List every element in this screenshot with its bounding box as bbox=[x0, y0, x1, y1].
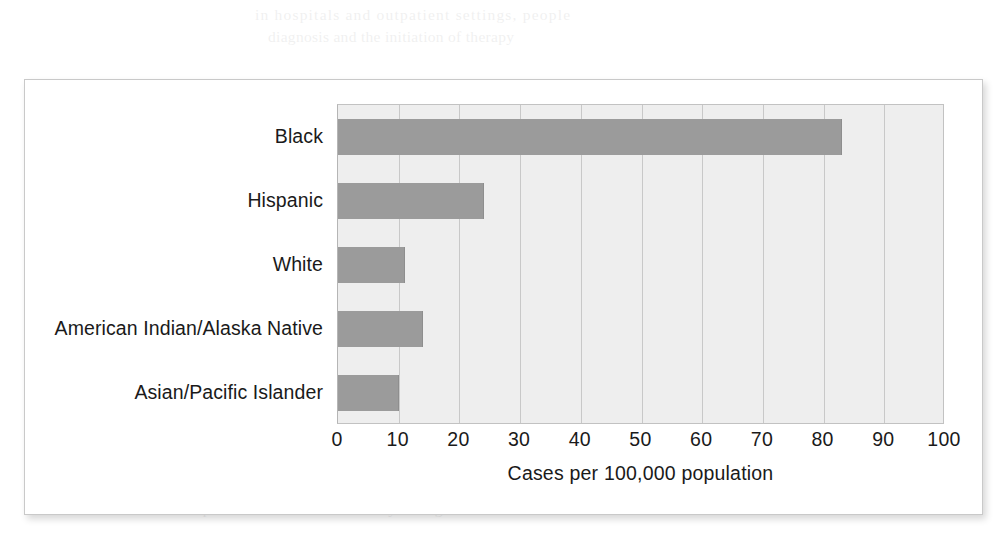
x-tick-label: 50 bbox=[606, 428, 676, 451]
bleed-through-line: diagnosis and the initiation of therapy bbox=[268, 28, 514, 46]
bars-layer bbox=[338, 105, 943, 423]
x-tick-label: 30 bbox=[484, 428, 554, 451]
bar bbox=[338, 311, 423, 347]
x-tick-label: 20 bbox=[423, 428, 493, 451]
category-label: Asian/Pacific Islander bbox=[134, 360, 323, 424]
x-tick-label: 40 bbox=[545, 428, 615, 451]
x-tick-label: 90 bbox=[848, 428, 918, 451]
bar bbox=[338, 183, 484, 219]
bar-row bbox=[338, 233, 943, 297]
category-label: White bbox=[273, 232, 323, 296]
bar-row bbox=[338, 169, 943, 233]
x-tick-label: 10 bbox=[363, 428, 433, 451]
plot-area bbox=[337, 104, 944, 424]
category-label: Hispanic bbox=[247, 168, 323, 232]
bar-row bbox=[338, 105, 943, 169]
figure-panel: Black Hispanic White American Indian/Ala… bbox=[24, 79, 983, 515]
x-tick-label: 0 bbox=[302, 428, 372, 451]
x-tick-label: 60 bbox=[666, 428, 736, 451]
x-tick-label: 70 bbox=[727, 428, 797, 451]
x-tick-label: 100 bbox=[909, 428, 979, 451]
category-label: Black bbox=[275, 104, 323, 168]
bar-row bbox=[338, 297, 943, 361]
bar bbox=[338, 375, 399, 411]
x-tick-label: 80 bbox=[788, 428, 858, 451]
bar bbox=[338, 119, 842, 155]
bleed-through-line: in hospitals and outpatient settings, pe… bbox=[255, 6, 571, 24]
bar-row bbox=[338, 361, 943, 425]
bar bbox=[338, 247, 405, 283]
category-label: American Indian/Alaska Native bbox=[55, 296, 323, 360]
x-axis-title: Cases per 100,000 population bbox=[337, 462, 944, 485]
